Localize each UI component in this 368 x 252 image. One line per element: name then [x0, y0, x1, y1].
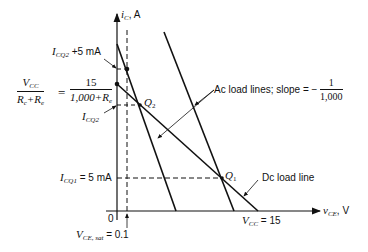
equation-lhs-fraction: VCC Rc+Re: [17, 77, 44, 107]
origin-label: 0: [108, 214, 114, 224]
icq2-pointer: [104, 106, 116, 113]
dc-load-line-label: Dc load line: [262, 173, 314, 183]
ac-slope-fraction: 1 1,000: [320, 78, 343, 102]
vcc-label: VCC = 15: [242, 215, 281, 228]
vce-sat-label: VCE, sat = 0.1: [76, 229, 129, 242]
dc-intercept-point: [115, 82, 120, 87]
icq2-label: ICQ2: [82, 111, 99, 124]
equation-equals: =: [58, 86, 65, 99]
load-line-diagram: [0, 0, 368, 252]
ac-load-lines-label: Ac load lines; slope = −: [214, 85, 317, 95]
x-axis-label: vCE, V: [323, 205, 349, 218]
icq2-plus-point: [125, 67, 130, 72]
equation-rhs-fraction: 15 1,000+Re: [70, 77, 112, 105]
q1-point: [220, 176, 224, 180]
q2-point: [138, 103, 142, 107]
dc-load-line: [117, 84, 258, 211]
icq1-label: ICQ1 = 5 mA: [60, 172, 112, 185]
q1-label: Q1: [225, 170, 236, 183]
q2-label: Q2: [144, 97, 155, 110]
icq2-plus-5ma-label: ICQ2 +5 mA: [52, 46, 101, 59]
y-axis-label: iC, A: [121, 9, 140, 22]
dc-load-pointer: [244, 180, 258, 196]
ac-load-line-q1: [164, 32, 234, 211]
ac-load-pointer-2: [158, 90, 214, 138]
icq2-plus-pointer: [104, 59, 116, 68]
